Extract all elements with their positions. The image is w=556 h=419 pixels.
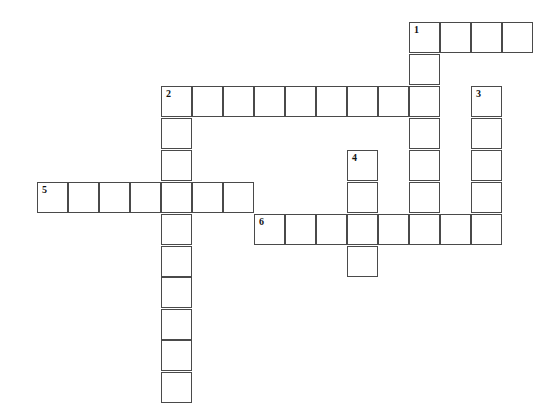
crossword-cell[interactable] [161,309,192,340]
crossword-cell[interactable] [471,22,502,53]
cell-letter [162,119,191,148]
cell-letter [162,183,191,212]
cell-letter [162,87,191,116]
crossword-cell[interactable] [223,86,254,117]
crossword-cell[interactable] [471,214,502,245]
crossword-cell[interactable] [99,182,130,213]
crossword-cell[interactable] [316,214,347,245]
crossword-cell[interactable] [161,372,192,403]
crossword-cell[interactable] [161,150,192,181]
crossword-cell[interactable] [223,182,254,213]
crossword-cell[interactable] [316,86,347,117]
cell-letter [410,23,439,52]
crossword-cell[interactable]: 6 [254,214,285,245]
cell-letter [410,119,439,148]
crossword-cell[interactable] [130,182,161,213]
crossword-cell[interactable]: 2 [161,86,192,117]
crossword-cell[interactable] [347,86,378,117]
cell-letter [410,215,439,244]
crossword-cell[interactable] [378,86,409,117]
cell-letter [255,87,284,116]
crossword-cell[interactable]: 5 [37,182,68,213]
cell-letter [472,215,501,244]
cell-letter [255,215,284,244]
cell-letter [193,87,222,116]
crossword-cell[interactable] [347,214,378,245]
cell-letter [131,183,160,212]
cell-letter [410,183,439,212]
cell-letter [224,183,253,212]
crossword-cell[interactable] [192,86,223,117]
crossword-cell[interactable] [378,214,409,245]
cell-letter [162,341,191,370]
crossword-cell[interactable] [471,118,502,149]
cell-letter [472,183,501,212]
cell-letter [224,87,253,116]
crossword-cell[interactable] [409,150,440,181]
cell-letter [348,183,377,212]
crossword-cell[interactable] [285,86,316,117]
cell-letter [379,215,408,244]
crossword-cell[interactable] [409,118,440,149]
cell-letter [503,23,532,52]
cell-letter [162,310,191,339]
cell-letter [379,87,408,116]
cell-letter [286,215,315,244]
cell-letter [286,87,315,116]
crossword-cell[interactable] [254,86,285,117]
cell-letter [317,87,346,116]
cell-letter [162,247,191,276]
cell-letter [38,183,67,212]
crossword-cell[interactable] [161,118,192,149]
cell-letter [162,151,191,180]
cell-letter [410,87,439,116]
crossword-cell[interactable]: 4 [347,150,378,181]
crossword-cell[interactable] [440,214,471,245]
crossword-cell[interactable] [161,340,192,371]
cell-letter [410,151,439,180]
cell-letter [100,183,129,212]
crossword-cell[interactable] [471,182,502,213]
cell-letter [348,247,377,276]
crossword-cell[interactable] [409,182,440,213]
crossword-cell[interactable] [502,22,533,53]
cell-letter [472,87,501,116]
crossword-grid: 123456 [0,0,556,419]
crossword-cell[interactable] [285,214,316,245]
crossword-cell[interactable] [409,86,440,117]
crossword-cell[interactable] [161,214,192,245]
crossword-cell[interactable] [192,182,223,213]
cell-letter [348,151,377,180]
crossword-cell[interactable]: 3 [471,86,502,117]
crossword-cell[interactable] [409,214,440,245]
cell-letter [472,151,501,180]
crossword-cell[interactable]: 1 [409,22,440,53]
crossword-cell[interactable] [409,54,440,85]
cell-letter [162,278,191,307]
cell-letter [193,183,222,212]
crossword-cell[interactable] [161,246,192,277]
crossword-cell[interactable] [68,182,99,213]
cell-letter [348,87,377,116]
cell-letter [162,373,191,402]
crossword-cell[interactable] [161,277,192,308]
crossword-cell[interactable] [161,182,192,213]
cell-letter [348,215,377,244]
crossword-cell[interactable] [471,150,502,181]
cell-letter [317,215,346,244]
cell-letter [472,23,501,52]
crossword-cell[interactable] [347,182,378,213]
cell-letter [472,119,501,148]
cell-letter [410,55,439,84]
cell-letter [69,183,98,212]
crossword-cell[interactable] [347,246,378,277]
cell-letter [441,23,470,52]
crossword-cell[interactable] [440,22,471,53]
cell-letter [441,215,470,244]
cell-letter [162,215,191,244]
